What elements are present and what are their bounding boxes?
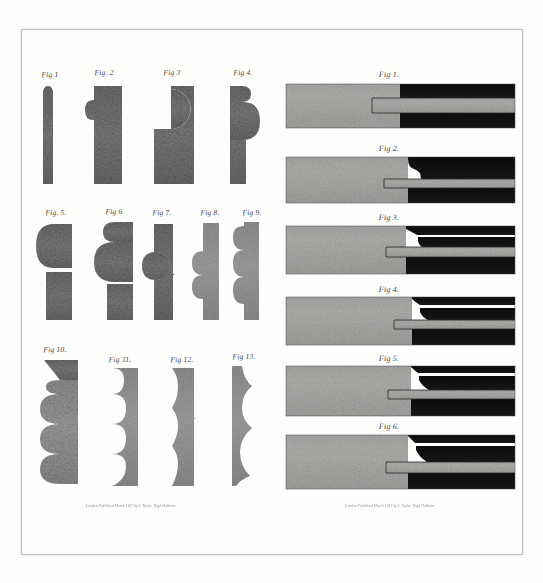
fig-7-label: Fig 7. — [148, 208, 176, 218]
fig-6-label: Fig 6 — [99, 207, 129, 217]
fig-10-moulding-profile — [40, 358, 82, 484]
fig-r6-label: Fig 6. — [372, 422, 406, 431]
right-imprint: London Published March 1817 by I. Taylor… — [345, 504, 435, 509]
fig-13-label: Fig 13. — [228, 352, 260, 362]
engraving-plate: Fig 1 Fig. 2 Fig 3 Fig 4. — [0, 0, 543, 583]
fig-8-label: Fig 8. — [196, 208, 224, 218]
fig-r4-label: Fig 4. — [372, 285, 406, 294]
fig-3-section-plane — [286, 226, 515, 274]
fig-3-label: Fig 3 — [157, 68, 187, 78]
fig-5-section-plane — [286, 366, 515, 416]
fig-r1-label: Fig 1. — [372, 70, 406, 79]
fig-2-label: Fig. 2 — [89, 68, 119, 78]
fig-6-section-plane — [286, 435, 515, 489]
fig-4-label: Fig 4. — [228, 68, 258, 78]
fig-1-label: Fig 1 — [37, 70, 63, 80]
fig-4-moulding-profile — [224, 83, 262, 184]
fig-5-label: Fig. 5. — [40, 208, 72, 218]
fig-9-label: Fig 9. — [238, 208, 266, 218]
fig-11-moulding-profile — [104, 368, 142, 486]
fig-8-moulding-profile — [194, 221, 222, 320]
fig-7-moulding-profile — [146, 222, 176, 320]
fig-12-moulding-profile — [164, 368, 198, 486]
fig-2-moulding-profile — [84, 84, 124, 184]
fig-10-label: Fig 10. — [38, 345, 72, 355]
fig-4-section-plane — [286, 297, 515, 345]
fig-2-section-plane — [286, 157, 515, 203]
fig-9-moulding-profile — [236, 220, 262, 320]
fig-r3-label: Fig 3. — [372, 213, 406, 222]
fig-1-moulding-profile — [39, 84, 57, 184]
fig-r2-label: Fig 2. — [372, 144, 406, 153]
fig-r5-label: Fig 5. — [372, 354, 406, 363]
fig-12-label: Fig 12. — [166, 355, 198, 365]
fig-5-moulding-profile — [40, 222, 76, 320]
fig-6-moulding-profile — [97, 220, 137, 320]
fig-13-moulding-profile — [226, 364, 260, 486]
fig-1-section-plane — [286, 84, 515, 128]
fig-11-label: Fig 11. — [104, 355, 136, 365]
fig-3-moulding-profile — [148, 83, 196, 184]
left-imprint: London Published March 1817 by I. Taylor… — [86, 504, 176, 509]
